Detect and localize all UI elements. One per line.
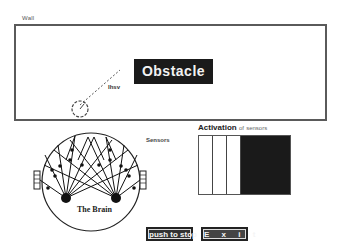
push-to-stop-button[interactable]: push to stop (146, 227, 193, 241)
brain-diagram (34, 133, 146, 231)
activation-chart (198, 135, 291, 195)
sensors-label: Sensors (146, 137, 170, 143)
brain-label: The Brain (77, 205, 112, 214)
world-overlay (0, 0, 339, 252)
activation-column-4 (241, 136, 290, 194)
activation-column-2 (213, 136, 227, 194)
sensor-ray-label: Ihsv (108, 84, 120, 90)
left-sensor-box (34, 171, 40, 189)
activation-column-3 (227, 136, 241, 194)
push-to-stop-label: push to stop (148, 229, 191, 239)
exit-button[interactable]: E x i t (201, 227, 248, 241)
right-sensor-box (140, 171, 146, 189)
activation-title-of: of (239, 125, 244, 131)
activation-title-main: Activation (198, 123, 237, 132)
activation-title-sensors: sensors (246, 125, 267, 131)
activation-column-1 (199, 136, 213, 194)
activation-title: Activation of sensors (198, 123, 267, 132)
robot-icon[interactable] (72, 101, 88, 117)
exit-label: E x i t (203, 229, 246, 239)
